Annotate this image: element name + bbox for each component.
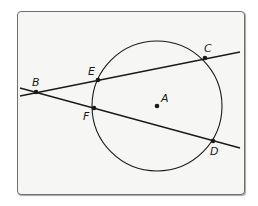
point-dot xyxy=(92,106,97,111)
point-e: E xyxy=(88,65,100,82)
point-dot xyxy=(96,78,101,83)
circle-secants-diagram: ABCDEF xyxy=(0,0,258,206)
point-label: C xyxy=(204,42,212,55)
point-label: E xyxy=(88,65,95,78)
secant-lines xyxy=(20,52,240,148)
point-label: D xyxy=(210,145,218,158)
point-label: B xyxy=(32,76,40,89)
point-dot xyxy=(155,104,160,109)
labeled-points: ABCDEF xyxy=(32,42,218,158)
point-label: F xyxy=(83,110,90,123)
point-dot xyxy=(211,139,216,144)
point-dot xyxy=(34,90,39,95)
geometry-figure: ABCDEF xyxy=(0,0,258,206)
point-a: A xyxy=(155,92,169,108)
point-label: A xyxy=(160,92,169,105)
point-f: F xyxy=(83,106,96,123)
point-dot xyxy=(203,56,208,61)
secant-BFD-line xyxy=(20,88,240,148)
